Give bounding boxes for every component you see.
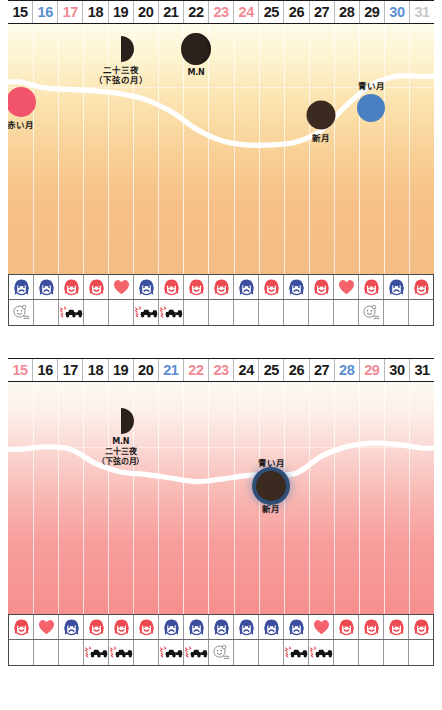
date-cell-24[interactable]: 24: [234, 1, 259, 23]
date-cell-18[interactable]: 18: [83, 359, 108, 381]
icon-cell-car[interactable]: [309, 640, 334, 665]
icon-cell-face-blue[interactable]: [234, 615, 259, 639]
date-cell-26[interactable]: 26: [284, 1, 309, 23]
date-cell-22[interactable]: 22: [184, 359, 209, 381]
date-cell-22[interactable]: 22: [184, 1, 209, 23]
date-cell-16[interactable]: 16: [33, 1, 58, 23]
icon-cell-face-blue[interactable]: [384, 275, 409, 299]
icon-cell-face-blue[interactable]: [9, 275, 34, 299]
icon-cell-face-red[interactable]: [84, 275, 109, 299]
icon-cell-empty[interactable]: [184, 300, 209, 325]
icon-cell-face-blue[interactable]: [184, 615, 209, 639]
date-cell-23[interactable]: 23: [209, 1, 234, 23]
icon-cell-heart[interactable]: [109, 275, 134, 299]
icon-cell-face-red[interactable]: [184, 275, 209, 299]
date-cell-25[interactable]: 25: [259, 359, 284, 381]
date-cell-19[interactable]: 19: [109, 359, 134, 381]
icon-cell-empty[interactable]: [234, 640, 259, 665]
date-cell-21[interactable]: 21: [159, 1, 184, 23]
icon-cell-empty[interactable]: [259, 300, 284, 325]
date-cell-17[interactable]: 17: [58, 1, 83, 23]
date-cell-16[interactable]: 16: [33, 359, 58, 381]
icon-cell-heart[interactable]: [309, 615, 334, 639]
icon-cell-face-red[interactable]: [359, 275, 384, 299]
icon-cell-face-blue[interactable]: [284, 615, 309, 639]
icon-cell-empty[interactable]: [209, 300, 234, 325]
icon-cell-face-blue[interactable]: [159, 615, 184, 639]
icon-cell-face-red[interactable]: [109, 615, 134, 639]
icon-cell-car[interactable]: [84, 640, 109, 665]
icon-cell-empty[interactable]: [109, 300, 134, 325]
icon-cell-empty[interactable]: [359, 640, 384, 665]
icon-cell-car[interactable]: [184, 640, 209, 665]
icon-cell-heart[interactable]: [334, 275, 359, 299]
icon-cell-baby[interactable]: [359, 300, 384, 325]
icon-cell-face-blue[interactable]: [234, 275, 259, 299]
date-cell-20[interactable]: 20: [134, 359, 159, 381]
date-cell-30[interactable]: 30: [385, 1, 410, 23]
date-cell-29[interactable]: 29: [360, 359, 385, 381]
icon-cell-empty[interactable]: [34, 300, 59, 325]
icon-cell-face-red[interactable]: [359, 615, 384, 639]
icon-cell-face-red[interactable]: [259, 275, 284, 299]
icon-cell-face-blue[interactable]: [209, 615, 234, 639]
icon-cell-face-red[interactable]: [159, 275, 184, 299]
icon-cell-car[interactable]: [59, 300, 84, 325]
icon-cell-empty[interactable]: [384, 300, 409, 325]
date-cell-20[interactable]: 20: [134, 1, 159, 23]
icon-cell-baby[interactable]: [9, 300, 34, 325]
icon-cell-face-red[interactable]: [134, 615, 159, 639]
date-cell-25[interactable]: 25: [259, 1, 284, 23]
date-cell-27[interactable]: 27: [310, 359, 335, 381]
icon-cell-car[interactable]: [284, 640, 309, 665]
icon-cell-empty[interactable]: [9, 640, 34, 665]
date-cell-18[interactable]: 18: [83, 1, 108, 23]
icon-cell-face-red[interactable]: [59, 275, 84, 299]
icon-cell-face-blue[interactable]: [59, 615, 84, 639]
date-cell-26[interactable]: 26: [284, 359, 309, 381]
date-cell-19[interactable]: 19: [109, 1, 134, 23]
date-cell-17[interactable]: 17: [58, 359, 83, 381]
icon-cell-face-red[interactable]: [84, 615, 109, 639]
icon-cell-face-red[interactable]: [309, 275, 334, 299]
icon-cell-face-red[interactable]: [409, 615, 433, 639]
icon-cell-car[interactable]: [109, 640, 134, 665]
icon-cell-face-red[interactable]: [9, 615, 34, 639]
icon-cell-empty[interactable]: [409, 300, 433, 325]
icon-cell-empty[interactable]: [234, 300, 259, 325]
icon-cell-face-red[interactable]: [334, 615, 359, 639]
icon-cell-face-blue[interactable]: [259, 615, 284, 639]
icon-cell-empty[interactable]: [259, 640, 284, 665]
icon-cell-empty[interactable]: [34, 640, 59, 665]
icon-cell-face-red[interactable]: [384, 615, 409, 639]
date-cell-31[interactable]: 31: [410, 359, 434, 381]
icon-cell-empty[interactable]: [409, 640, 433, 665]
date-cell-21[interactable]: 21: [159, 359, 184, 381]
icon-cell-car[interactable]: [134, 300, 159, 325]
icon-cell-empty[interactable]: [59, 640, 84, 665]
icon-cell-empty[interactable]: [384, 640, 409, 665]
icon-cell-empty[interactable]: [334, 640, 359, 665]
icon-cell-empty[interactable]: [334, 300, 359, 325]
date-cell-28[interactable]: 28: [335, 359, 360, 381]
icon-cell-empty[interactable]: [134, 640, 159, 665]
date-cell-30[interactable]: 30: [385, 359, 410, 381]
date-cell-29[interactable]: 29: [360, 1, 385, 23]
icon-cell-empty[interactable]: [309, 300, 334, 325]
icon-cell-face-blue[interactable]: [34, 275, 59, 299]
icon-cell-car[interactable]: [159, 640, 184, 665]
icon-cell-face-red[interactable]: [409, 275, 433, 299]
date-cell-23[interactable]: 23: [209, 359, 234, 381]
icon-cell-empty[interactable]: [284, 300, 309, 325]
date-cell-27[interactable]: 27: [310, 1, 335, 23]
date-cell-15[interactable]: 15: [8, 359, 33, 381]
date-cell-31[interactable]: 31: [410, 1, 434, 23]
date-cell-28[interactable]: 28: [335, 1, 360, 23]
date-cell-15[interactable]: 15: [8, 1, 33, 23]
icon-cell-empty[interactable]: [84, 300, 109, 325]
icon-cell-baby[interactable]: [209, 640, 234, 665]
icon-cell-car[interactable]: [159, 300, 184, 325]
icon-cell-face-blue[interactable]: [134, 275, 159, 299]
date-cell-24[interactable]: 24: [234, 359, 259, 381]
icon-cell-face-red[interactable]: [209, 275, 234, 299]
